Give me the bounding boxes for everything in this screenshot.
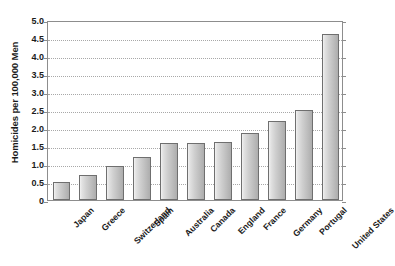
bar	[268, 121, 286, 200]
bar	[53, 182, 71, 200]
y-axis-tick-mark-right	[342, 94, 346, 95]
x-axis-tick-labels: JapanGreeceSwitzerlandSpainAustraliaCana…	[47, 203, 343, 265]
y-tick-label: 4.0	[31, 52, 44, 62]
x-tick-label: France	[261, 205, 288, 232]
bar	[79, 175, 97, 200]
bar	[106, 166, 124, 200]
y-tick-label: 2.5	[31, 106, 44, 116]
bar	[241, 133, 259, 200]
y-tick-label: 0.5	[31, 178, 44, 188]
x-tick-label: Greece	[100, 205, 128, 233]
y-tick-label: 0	[39, 196, 44, 206]
bar	[133, 157, 151, 200]
x-tick-label: Germany	[291, 205, 324, 238]
y-axis-tick-mark-right	[342, 166, 346, 167]
x-tick-label: Japan	[72, 205, 97, 230]
y-axis-tick-mark-right	[342, 76, 346, 77]
bar	[160, 143, 178, 200]
y-tick-label: 4.5	[31, 34, 44, 44]
y-tick-label: 3.5	[31, 70, 44, 80]
y-axis-tick-mark-right	[342, 58, 346, 59]
y-axis-tick-mark-right	[342, 184, 346, 185]
y-tick-label: 3.0	[31, 88, 44, 98]
y-axis-tick-mark-right	[342, 130, 346, 131]
y-tick-label: 1.5	[31, 142, 44, 152]
y-axis-tick-mark-right	[342, 22, 346, 23]
x-tick-label: Australia	[183, 205, 216, 238]
bar	[295, 110, 313, 200]
y-axis-tick-mark-right	[342, 112, 346, 113]
y-tick-label: 2.0	[31, 124, 44, 134]
y-axis-tick-labels: 5.04.54.03.53.02.52.01.51.00.50	[22, 21, 46, 201]
y-tick-label: 1.0	[31, 160, 44, 170]
y-axis-tick-mark-right	[342, 40, 346, 41]
y-tick-label: 5.0	[31, 16, 44, 26]
bar	[187, 143, 205, 200]
y-axis-tick-mark-right	[342, 148, 346, 149]
x-tick-label: United States	[349, 205, 395, 251]
x-tick-label: England	[236, 205, 267, 236]
bar-series	[48, 22, 342, 200]
x-tick-label: Spain	[152, 205, 176, 229]
y-axis-title-text: Homicides per 100,000 Men	[10, 42, 21, 164]
bar	[214, 142, 232, 200]
plot-area	[47, 21, 343, 201]
bar	[322, 34, 340, 200]
